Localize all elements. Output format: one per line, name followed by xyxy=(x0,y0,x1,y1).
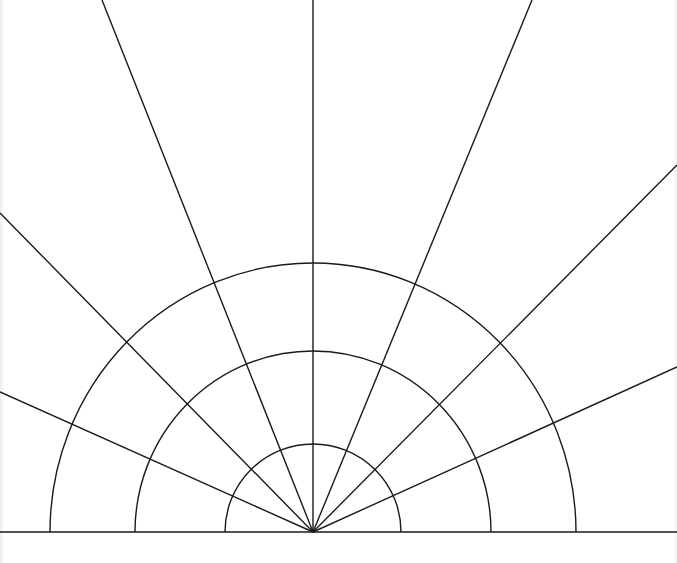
ray-24-right xyxy=(313,367,677,532)
radial-line-group xyxy=(0,0,677,532)
ray-45-right xyxy=(313,165,677,532)
ray-68-right xyxy=(313,0,532,532)
polar-grid-diagram xyxy=(0,0,677,563)
diagram-canvas xyxy=(0,0,677,563)
ray-45-left xyxy=(0,213,313,532)
